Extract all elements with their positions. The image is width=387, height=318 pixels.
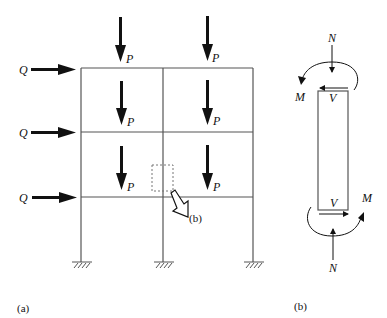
arrow-right-icon <box>31 64 77 203</box>
load-label-p: P <box>125 52 134 66</box>
moment-arc-bottom <box>307 207 361 236</box>
frame-structure <box>81 68 253 262</box>
load-label-p: P <box>211 51 220 65</box>
axial-label-top: N <box>327 31 337 45</box>
fixed-support-icon <box>72 262 264 268</box>
caption-b: (b) <box>294 300 307 313</box>
load-label-q: Q <box>19 191 28 205</box>
arrow-down-icon <box>115 16 213 190</box>
load-label-q: Q <box>19 63 28 77</box>
load-label-p: P <box>126 180 135 194</box>
moment-label-bottom: M <box>361 191 373 205</box>
load-label-q: Q <box>19 126 28 140</box>
load-label-p: P <box>126 115 135 129</box>
shear-label-bottom: V <box>330 196 339 210</box>
moment-arrowhead-bottom <box>358 212 364 222</box>
moment-arrowhead-top <box>298 76 306 85</box>
caption-a: (a) <box>17 302 30 315</box>
moment-label-top: M <box>294 90 306 104</box>
frame-diagram: P P P P P P Q Q Q (b) (a) N M V V M N (b… <box>0 0 387 318</box>
load-label-p: P <box>212 114 221 128</box>
hollow-arrow-icon <box>171 190 188 217</box>
detail-callout-label: (b) <box>189 212 202 225</box>
shear-label-top: V <box>329 91 338 105</box>
axial-label-bottom: N <box>328 261 338 275</box>
load-label-p: P <box>212 180 221 194</box>
moment-arc-top <box>302 62 358 90</box>
column-element <box>318 91 348 210</box>
